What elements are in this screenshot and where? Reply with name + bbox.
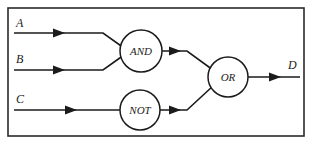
input-label-a: A bbox=[15, 16, 24, 30]
and-gate-label: AND bbox=[129, 45, 152, 57]
and-gate[interactable]: AND bbox=[120, 30, 162, 72]
input-label-c: C bbox=[16, 92, 25, 106]
arrow-head-input-c bbox=[65, 106, 77, 115]
or-gate-label: OR bbox=[221, 71, 236, 83]
arrow-head-and-output bbox=[169, 47, 181, 56]
not-gate-label: NOT bbox=[128, 104, 151, 116]
or-gate[interactable]: OR bbox=[208, 57, 248, 97]
arrow-head-output-d bbox=[269, 73, 281, 82]
arrow-head-input-b bbox=[53, 66, 65, 75]
arrow-head-not-output bbox=[169, 106, 181, 115]
wire-input-b bbox=[14, 55, 124, 70]
input-label-b: B bbox=[16, 52, 24, 66]
wire-not-to-or bbox=[160, 86, 213, 110]
not-gate[interactable]: NOT bbox=[120, 90, 160, 130]
circuit-canvas: AND NOT OR A B C D bbox=[0, 0, 318, 147]
output-label-d: D bbox=[287, 58, 297, 72]
logic-circuit-diagram: AND NOT OR A B C D bbox=[0, 0, 318, 147]
arrow-head-input-a bbox=[53, 29, 65, 38]
wire-input-a bbox=[14, 33, 124, 48]
